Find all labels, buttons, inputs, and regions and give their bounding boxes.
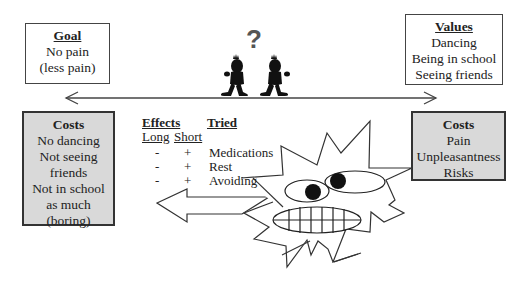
question-mark: ?	[246, 24, 262, 55]
double-arrow-icon	[66, 92, 436, 104]
short-header: Short	[174, 129, 202, 145]
walking-figure-right-icon	[260, 54, 290, 96]
long-header: Long	[142, 129, 169, 145]
monster-mouth-icon	[273, 207, 361, 233]
table-row-long: -	[155, 173, 159, 189]
walking-figure-left-icon	[221, 54, 248, 96]
table-row-tried: Avoiding	[209, 173, 257, 189]
tried-header: Tried	[207, 115, 237, 131]
table-row-short: +	[184, 173, 191, 189]
